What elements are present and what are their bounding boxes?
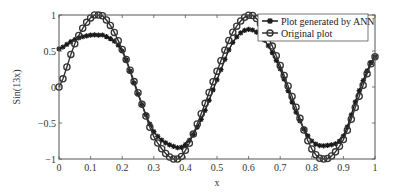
y-tick-label: 0 bbox=[51, 82, 56, 93]
chart: 00.10.20.30.40.50.60.70.80.91 −1−0.500.5… bbox=[0, 0, 396, 192]
x-tick-label: 0.6 bbox=[242, 162, 255, 173]
x-tick-label: 1 bbox=[373, 162, 378, 173]
x-tick-label: 0.9 bbox=[337, 162, 350, 173]
x-tick-label: 0.4 bbox=[179, 162, 192, 173]
y-tick-label: 0.5 bbox=[44, 46, 57, 57]
x-tick-label: 0.2 bbox=[116, 162, 129, 173]
x-axis-label: x bbox=[215, 177, 220, 188]
y-tick-label: −1 bbox=[45, 154, 56, 165]
x-tick-label: 0.7 bbox=[274, 162, 287, 173]
y-axis-label: Sin(13x) bbox=[11, 70, 23, 105]
series-ann bbox=[56, 27, 377, 151]
legend-label-ann: Plot generated by ANN bbox=[281, 16, 375, 27]
legend: Plot generated by ANN Original plot bbox=[258, 14, 375, 41]
y-tick-label: −0.5 bbox=[38, 118, 56, 129]
y-tick-label: 1 bbox=[51, 10, 56, 21]
legend-label-original: Original plot bbox=[281, 28, 333, 39]
x-tick-label: 0 bbox=[57, 162, 62, 173]
x-tick-label: 0.5 bbox=[211, 162, 224, 173]
x-tick-label: 0.3 bbox=[148, 162, 161, 173]
x-tick-label: 0.1 bbox=[84, 162, 97, 173]
x-tick-label: 0.8 bbox=[306, 162, 319, 173]
star-marker-icon bbox=[267, 18, 273, 24]
